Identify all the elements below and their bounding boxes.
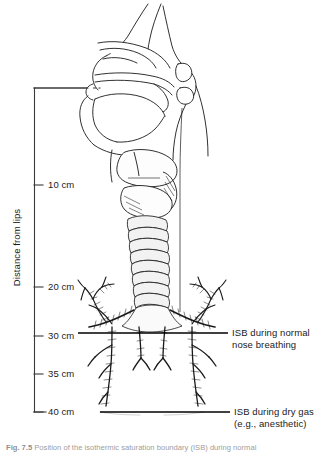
figure-caption: Fig. 7.5 Position of the isothermic satu… (6, 443, 318, 452)
tick-label-10cm: 10 cm (48, 180, 74, 190)
tick-label-30cm: 30 cm (48, 331, 74, 341)
respiratory-isb-figure: Distance from lips 10 cm 20 cm 30 cm 35 … (0, 0, 324, 455)
annotation-isb-normal-nose-breathing: ISB during normal nose breathing (232, 327, 310, 350)
annotation-isb-normal-line2: nose breathing (232, 339, 310, 351)
annotation-isb-drygas-line1: ISB during dry gas (234, 406, 314, 417)
figure-caption-text: Position of the isothermic saturation bo… (34, 443, 256, 452)
anatomy-illustration (0, 0, 324, 455)
annotation-isb-normal-line1: ISB during normal (232, 327, 310, 338)
annotation-isb-dry-gas: ISB during dry gas (e.g., anesthetic) (234, 406, 314, 429)
right-lower-branches (154, 327, 216, 406)
left-lower-branches (88, 327, 150, 406)
tick-label-20cm: 20 cm (48, 282, 74, 292)
figure-caption-number: Fig. 7.5 (6, 443, 32, 452)
trachea (127, 216, 180, 312)
tick-label-40cm: 40 cm (48, 407, 74, 417)
axis-title-distance-from-lips: Distance from lips (11, 193, 22, 303)
tick-label-35cm: 35 cm (48, 369, 74, 379)
annotation-isb-drygas-line2: (e.g., anesthetic) (234, 418, 314, 430)
